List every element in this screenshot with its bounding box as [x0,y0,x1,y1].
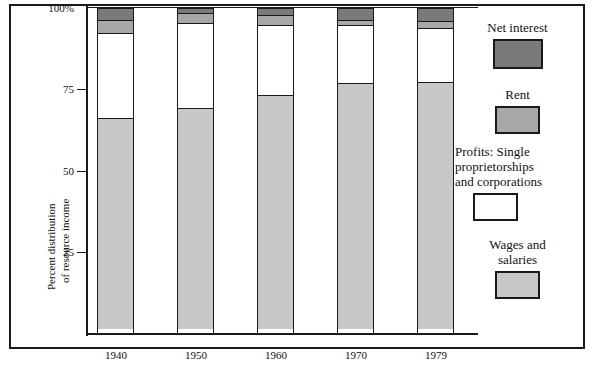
segment-profits [338,25,373,85]
bar-1970[interactable] [337,8,374,334]
legend-label-net-interest: Net interest [455,20,580,35]
x-label-1979: 1979 [406,349,466,361]
legend-label-profits-line3: and corporations [455,174,580,189]
bar-1979[interactable] [417,8,454,334]
segment-profits [98,33,133,119]
y-axis-title-line1: Percent distribution [45,204,57,290]
y-tick-label-75: 75 [63,84,74,95]
y-axis-title-line2: of resource income [59,199,71,283]
y-tick-25 [77,252,87,253]
y-tick-75 [77,89,87,90]
legend-item-profits[interactable]: Profits: Single proprietorships and corp… [455,144,580,221]
bar-1940[interactable] [97,8,134,334]
segment-wages [418,82,453,330]
x-label-1970: 1970 [326,349,386,361]
segment-wages [178,108,213,330]
legend-label-wages-line2: salaries [455,252,580,267]
bar-1960[interactable] [257,8,294,334]
segment-profits [258,25,293,97]
legend-swatch-net-interest [493,39,543,69]
legend-label-profits-line1: Profits: Single [455,144,580,159]
x-label-1950: 1950 [166,349,226,361]
x-label-1960: 1960 [246,349,306,361]
bar-1950[interactable] [177,8,214,334]
legend-label-rent: Rent [455,87,580,102]
legend-swatch-profits [473,193,518,221]
legend-item-rent[interactable]: Rent [455,87,580,134]
legend-label-profits-line2: proprietorships [455,159,580,174]
y-axis-title: Percent distribution of resource income [34,120,62,290]
segment-wages [258,95,293,330]
segment-profits [178,23,213,109]
legend-label-wages-line1: Wages and [455,237,580,252]
y-tick-50 [77,171,87,172]
legend-item-net-interest[interactable]: Net interest [455,20,580,69]
y-tick-label-50: 50 [63,166,74,177]
segment-profits [418,28,453,83]
y-tick-label-100: 100% [48,3,74,14]
legend-item-wages[interactable]: Wages and salaries [455,237,580,299]
chart-figure: 100% 75 50 25 Percent distribution of re… [0,0,594,371]
chart-legend: Net interest Rent Profits: Single propri… [455,20,580,301]
legend-swatch-rent [495,106,540,134]
legend-swatch-wages [495,271,540,299]
plot-area: 1940 1950 1960 1970 1979 [88,8,462,334]
segment-wages [98,118,133,330]
segment-wages [338,83,373,329]
x-label-1940: 1940 [86,349,146,361]
